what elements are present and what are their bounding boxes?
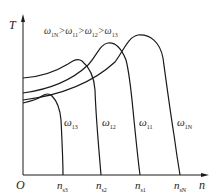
sync-speed-label-sN: nsN bbox=[174, 180, 186, 193]
sync-speed-label-s1: ns1 bbox=[135, 180, 146, 193]
sync-speed-label-s2: ns2 bbox=[96, 180, 107, 193]
curve-label-omega-1N: ω1N bbox=[177, 117, 192, 130]
curve-omega-13 bbox=[23, 94, 63, 175]
x-axis-arrow-icon bbox=[201, 173, 209, 177]
curve-omega-12 bbox=[23, 60, 101, 175]
curve-label-omega-12: ω12 bbox=[102, 117, 116, 130]
curve-label-omega-13: ω13 bbox=[64, 117, 78, 130]
speed-condition-inequality: ω1N>ω11>ω12>ω13 bbox=[44, 25, 118, 38]
x-axis-label: n bbox=[199, 179, 205, 191]
origin-label: O bbox=[16, 179, 25, 191]
sync-speed-label-s3: ns3 bbox=[57, 180, 68, 193]
y-axis-arrow-icon bbox=[21, 14, 25, 22]
y-axis-label: T bbox=[9, 19, 16, 31]
curve-label-omega-11: ω11 bbox=[139, 117, 153, 130]
curve-omega-11 bbox=[23, 43, 140, 175]
curve-omega-1N bbox=[23, 35, 180, 175]
